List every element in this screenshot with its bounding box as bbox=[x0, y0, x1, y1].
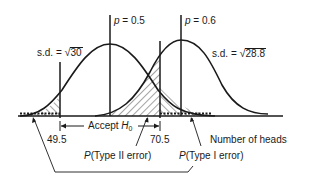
null-sd-label: s.d. = √30 bbox=[37, 47, 83, 59]
type2-text: (Type II error) bbox=[91, 150, 152, 161]
null-p-label: p = 0.5 bbox=[114, 16, 145, 26]
type2-pointer bbox=[136, 118, 147, 146]
sd-prefix: s.d. = bbox=[37, 47, 65, 58]
sd-radicand: 30 bbox=[70, 47, 83, 59]
accept-h0-label: Accept H0 bbox=[88, 121, 133, 132]
p-symbol: p bbox=[185, 15, 191, 26]
accept-text: Accept bbox=[88, 120, 121, 131]
h-symbol: H bbox=[121, 120, 128, 131]
sd-radicand: 28.8 bbox=[245, 48, 266, 60]
upper-critical-value: 70.5 bbox=[150, 135, 169, 145]
lower-critical-value: 49.5 bbox=[47, 135, 66, 145]
alt-sd-label: s.d. = √28.8 bbox=[212, 48, 266, 60]
type1-error-label: P(Type I error) bbox=[179, 151, 243, 161]
p-symbol: P bbox=[84, 150, 91, 161]
sd-prefix: s.d. = bbox=[212, 48, 240, 59]
type1-text: (Type I error) bbox=[186, 150, 244, 161]
type1-pointer-upper bbox=[192, 118, 201, 146]
p-symbol: p bbox=[114, 15, 120, 26]
type2-error-label: P(Type II error) bbox=[84, 151, 151, 161]
p-value: = 0.5 bbox=[122, 15, 145, 26]
p-value: = 0.6 bbox=[193, 15, 216, 26]
alt-p-label: p = 0.6 bbox=[185, 16, 216, 26]
p-symbol: P bbox=[179, 150, 186, 161]
h-subscript: 0 bbox=[129, 125, 133, 132]
axis-label: Number of heads bbox=[210, 135, 287, 145]
